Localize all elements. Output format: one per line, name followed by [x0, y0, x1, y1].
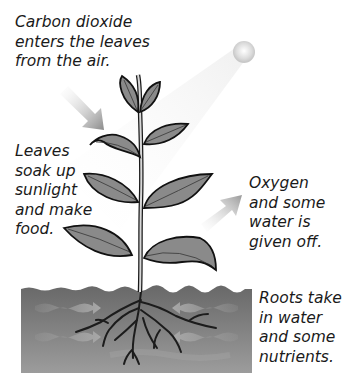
oxygen-label: Oxygen and some water is given off. — [249, 174, 325, 252]
carbon-dioxide-arrow-icon — [60, 86, 104, 130]
oxygen-arrow-icon — [201, 195, 242, 232]
roots-label: Roots take in water and some nutrients. — [259, 289, 342, 367]
carbon-dioxide-label: Carbon dioxide enters the leaves from th… — [15, 13, 150, 72]
leaves-label: Leaves soak up sunlight and make food. — [15, 142, 92, 240]
sun-icon — [233, 41, 255, 63]
